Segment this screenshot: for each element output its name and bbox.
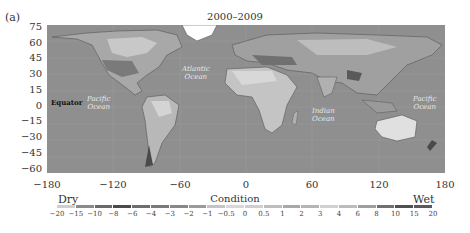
colorbar-segment [264,205,282,208]
colorbar-segment [189,205,207,208]
colorbar-segment [57,205,75,208]
y-tick: 60 [12,37,42,48]
x-tick: −180 [27,179,67,190]
colorbar-ticks: −20−15−10−8−6−4−3−2−1−0.500.512346810152… [57,210,433,220]
map-title: 2000–2009 [0,11,470,22]
colorbar-segment [377,205,395,208]
atlantic-ocean-label: Atlantic Ocean [182,65,210,81]
x-tick: 120 [359,179,399,190]
colorbar-segment [395,205,413,208]
indian-ocean-label: Indian Ocean [312,107,335,123]
colorbar-segment [95,205,113,208]
colorbar-segment [113,205,131,208]
colorbar-segment [414,205,432,208]
colorbar-segment [301,205,319,208]
colorbar-segment [226,205,244,208]
colorbar-segment [132,205,150,208]
colorbar [57,205,433,208]
colorbar-title: Condition [0,193,470,204]
x-tick: 0 [226,179,266,190]
equator-label: Equator [51,98,82,107]
colorbar-segment [170,205,188,208]
pacific-ocean-east-label: Pacific Ocean [413,95,436,111]
colorbar-segment [358,205,376,208]
pacific-ocean-west-label: Pacific Ocean [87,95,110,111]
x-tick: −60 [160,179,200,190]
y-tick: −60 [12,163,42,174]
y-tick: −15 [12,115,42,126]
x-tick: 60 [292,179,332,190]
x-tick: −120 [93,179,133,190]
y-tick: 30 [12,68,42,79]
x-tick: 180 [425,179,465,190]
y-tick: −45 [12,147,42,158]
colorbar-tick-label: 20 [421,210,445,218]
colorbar-segment [339,205,357,208]
y-tick: 45 [12,52,42,63]
y-tick: 75 [12,21,42,32]
colorbar-segment [207,205,225,208]
colorbar-segment [283,205,301,208]
world-map: Equator Pacific Ocean Atlantic Ocean Ind… [47,25,445,173]
y-tick: 15 [12,84,42,95]
colorbar-segment [76,205,94,208]
colorbar-segment [245,205,263,208]
y-tick: −30 [12,131,42,142]
colorbar-segment [320,205,338,208]
y-tick: 0 [12,100,42,111]
colorbar-segment [151,205,169,208]
